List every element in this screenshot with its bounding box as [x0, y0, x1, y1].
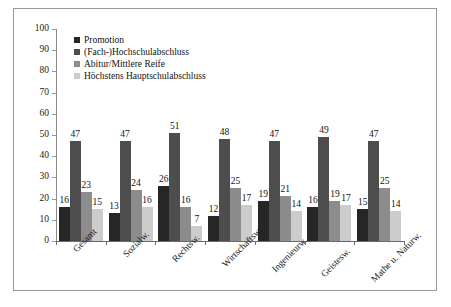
bar: 16 — [307, 207, 318, 241]
bar-value-label: 23 — [82, 180, 92, 190]
chart-legend: Promotion(Fach-)HochschulabschlussAbitur… — [74, 34, 206, 82]
bar-value-label: 25 — [231, 176, 241, 186]
bar-value-label: 19 — [330, 189, 340, 199]
bar-value-label: 47 — [120, 129, 130, 139]
bar-value-label: 7 — [194, 214, 199, 224]
bar: 15 — [357, 209, 368, 241]
bar: 47 — [120, 141, 131, 241]
bar-value-label: 24 — [131, 178, 141, 188]
bar: 17 — [340, 205, 351, 241]
bar: 13 — [109, 213, 120, 241]
bar-value-label: 48 — [220, 127, 230, 137]
bar: 19 — [329, 201, 340, 241]
legend-item: Höchstens Hauptschulabschluss — [74, 70, 206, 82]
bar-value-label: 47 — [71, 129, 81, 139]
legend-label: Höchstens Hauptschulabschluss — [84, 71, 206, 81]
bar-value-label: 17 — [341, 193, 351, 203]
bar-value-label: 14 — [391, 199, 401, 209]
legend-label: Abitur/Mittlere Reife — [84, 59, 165, 69]
bar-group: 16491917 — [307, 29, 351, 241]
x-axis-tick — [205, 241, 206, 245]
y-axis-tick-label: 20 — [40, 194, 50, 204]
bar-value-label: 49 — [319, 125, 329, 135]
bar-value-label: 25 — [380, 176, 390, 186]
bar: 47 — [70, 141, 81, 241]
bar: 47 — [269, 141, 280, 241]
bar: 48 — [219, 139, 230, 241]
bar: 25 — [230, 188, 241, 241]
bar-value-label: 21 — [280, 184, 290, 194]
legend-swatch-icon — [74, 37, 80, 43]
legend-label: (Fach-)Hochschulabschluss — [84, 47, 189, 57]
bar-value-label: 15 — [93, 197, 103, 207]
y-axis-tick-label: 30 — [40, 173, 50, 183]
bar-value-label: 19 — [258, 189, 268, 199]
x-axis-tick — [106, 241, 107, 245]
bar-value-label: 17 — [242, 193, 252, 203]
x-axis-tick — [255, 241, 256, 245]
bar: 26 — [158, 186, 169, 241]
bar: 51 — [169, 133, 180, 241]
bar: 21 — [280, 196, 291, 241]
y-axis-tick-label: 60 — [40, 109, 50, 119]
bar-value-label: 13 — [109, 201, 119, 211]
bar: 14 — [390, 211, 401, 241]
bar-value-label: 16 — [60, 195, 70, 205]
bar-group: 19472114 — [258, 29, 302, 241]
bar: 47 — [368, 141, 379, 241]
y-axis-tick-label: 50 — [40, 130, 50, 140]
bar-value-label: 47 — [369, 129, 379, 139]
bar-value-label: 14 — [291, 199, 301, 209]
legend-swatch-icon — [74, 49, 80, 55]
bar-group: 12482517 — [208, 29, 252, 241]
bar-group: 15472514 — [357, 29, 401, 241]
chart-figure: 1009080706050403020100 16472315134724162… — [13, 8, 437, 291]
legend-item: Promotion — [74, 34, 206, 46]
y-axis-labels: 1009080706050403020100 — [14, 9, 56, 242]
bar-value-label: 12 — [209, 204, 219, 214]
x-axis-tick — [155, 241, 156, 245]
bar-value-label: 47 — [269, 129, 279, 139]
x-axis-category-label: Geistesw. — [319, 246, 352, 279]
bar-value-label: 16 — [181, 195, 191, 205]
x-axis-tick — [404, 241, 405, 245]
bar: 49 — [318, 137, 329, 241]
bar-value-label: 16 — [308, 195, 318, 205]
bar: 16 — [59, 207, 70, 241]
y-axis-tick-label: 40 — [40, 151, 50, 161]
x-axis-tick — [305, 241, 306, 245]
legend-swatch-icon — [74, 73, 80, 79]
x-axis-tick — [56, 241, 57, 245]
bar-value-label: 26 — [159, 174, 169, 184]
x-axis-line — [56, 241, 405, 242]
legend-swatch-icon — [74, 61, 80, 67]
bar-value-label: 16 — [142, 195, 152, 205]
y-axis-tick-label: 10 — [40, 215, 50, 225]
bar-value-label: 15 — [358, 197, 368, 207]
bar: 25 — [379, 188, 390, 241]
y-axis-tick-label: 100 — [35, 24, 49, 34]
x-axis-tick — [354, 241, 355, 245]
bar: 12 — [208, 216, 219, 241]
legend-item: Abitur/Mittlere Reife — [74, 58, 206, 70]
y-axis-tick-label: 90 — [40, 45, 50, 55]
y-axis-tick-label: 0 — [44, 236, 49, 246]
y-axis-tick-label: 70 — [40, 88, 50, 98]
legend-item: (Fach-)Hochschulabschluss — [74, 46, 206, 58]
y-axis-tick-label: 80 — [40, 67, 50, 77]
bar-value-label: 51 — [170, 121, 180, 131]
legend-label: Promotion — [84, 35, 124, 45]
